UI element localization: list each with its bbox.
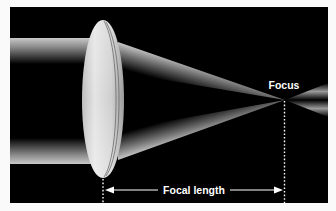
focal-length-label: Focal length	[163, 184, 225, 196]
focus-label: Focus	[269, 79, 300, 91]
focal-length-diagram: Focus Focal length	[0, 0, 336, 211]
lens	[82, 20, 124, 178]
diagram-frame	[10, 7, 328, 203]
